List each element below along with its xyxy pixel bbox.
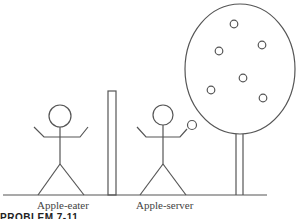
figure-caption: PROBLEM 7-11 [0, 212, 78, 219]
apple-server-label: Apple-server [136, 199, 193, 211]
pole [108, 91, 116, 195]
diagram: Apple-eater Apple-server PROBLEM 7-11 [0, 0, 299, 219]
apple-server-figure [137, 105, 197, 195]
apple-eater-figure [34, 105, 88, 195]
apple-tree [185, 4, 295, 195]
diagram-drawing [0, 0, 299, 219]
apple-eater-label: Apple-eater [37, 199, 89, 211]
held-apple [188, 121, 197, 130]
